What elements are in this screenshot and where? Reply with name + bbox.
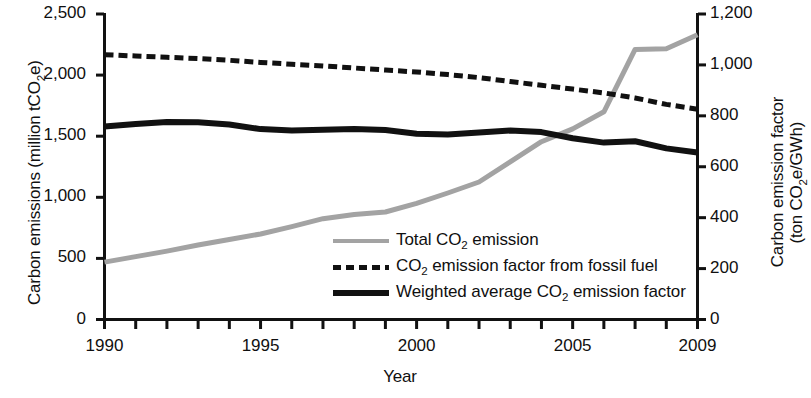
left-tick-label: 2,000 [12,64,86,84]
left-tick-label: 2,500 [12,3,86,23]
right-tick-label: 1,200 [710,3,784,23]
chart-legend: Total CO2 emissionCO2 emission factor fr… [333,228,686,306]
x-axis-title: Year [344,367,456,387]
x-tick-label: 2005 [538,336,608,356]
legend-item: CO2 emission factor from fossil fuel [333,254,686,280]
x-tick-label: 2009 [663,336,733,356]
legend-swatch-black-dashed-line [333,260,389,274]
left-tick-label: 1,500 [12,125,86,145]
chart-figure: 05001,0001,5002,0002,500 02004006008001,… [0,0,811,398]
legend-item: Total CO2 emission [333,228,686,254]
legend-label: CO2 emission factor from fossil fuel [396,256,658,277]
legend-label: Weighted average CO2 emission factor [396,282,686,303]
right-axis-ticks [698,14,706,320]
right-axis-title-line1: Carbon emission factor [768,22,788,342]
x-tick-label: 2000 [382,336,452,356]
legend-swatch-gray-solid-line [333,234,389,248]
left-tick-label: 1,000 [12,186,86,206]
legend-swatch-black-solid-line [333,286,389,300]
right-axis-title-line2: (ton CO2e/GWh) [787,23,808,343]
legend-label: Total CO2 emission [396,230,539,251]
left-axis-title: Carbon emissions (million tCO2e) [25,23,46,343]
x-tick-label: 1995 [226,336,296,356]
legend-item: Weighted average CO2 emission factor [333,280,686,306]
x-tick-label: 1990 [70,336,140,356]
x-axis-ticks [105,320,698,329]
left-tick-label: 500 [12,247,86,267]
series-line [105,122,698,153]
left-tick-label: 0 [12,309,86,329]
left-axis-ticks [96,14,104,320]
